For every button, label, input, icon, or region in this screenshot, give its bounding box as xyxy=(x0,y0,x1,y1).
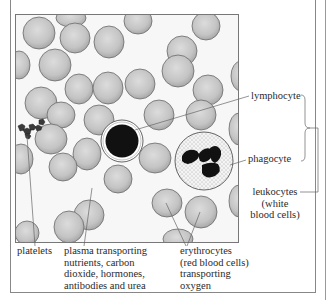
erythrocyte xyxy=(94,26,124,58)
label-leukocytes: leukocytes (white blood cells) xyxy=(243,186,307,221)
label-leukocytes-line1: leukocytes xyxy=(243,186,307,198)
erythrocyte xyxy=(104,165,132,193)
erythrocyte xyxy=(192,15,220,40)
erythrocyte xyxy=(185,196,217,228)
erythrocyte xyxy=(162,55,194,87)
label-plasma-line2: nutrients, carbon xyxy=(64,257,147,269)
erythrocyte xyxy=(54,211,84,243)
erythrocyte xyxy=(60,23,90,53)
erythrocyte xyxy=(65,74,93,104)
page-edge-divider xyxy=(325,0,326,300)
erythrocyte xyxy=(125,69,155,99)
label-phagocyte: phagocyte xyxy=(248,153,291,165)
label-platelets: platelets xyxy=(17,245,52,257)
label-erythrocytes-line2: (red blood cells) xyxy=(180,257,249,269)
blood-cells-illustration xyxy=(16,15,239,243)
erythrocyte xyxy=(139,143,171,173)
erythrocyte xyxy=(16,221,39,243)
label-plasma-line1: plasma transporting xyxy=(64,245,147,257)
label-plasma: plasma transporting nutrients, carbon di… xyxy=(64,245,147,291)
label-erythrocytes: erythrocytes (red blood cells) transport… xyxy=(180,245,249,291)
erythrocyte xyxy=(93,72,123,104)
erythrocyte xyxy=(23,17,55,49)
erythrocyte xyxy=(152,189,182,217)
label-erythrocytes-line3: transporting xyxy=(180,268,249,280)
label-plasma-line4: antibodies and urea xyxy=(64,280,147,292)
label-leukocytes-line2: (white xyxy=(243,198,307,210)
label-erythrocytes-line1: erythrocytes xyxy=(180,245,249,257)
erythrocyte xyxy=(186,100,216,130)
erythrocyte xyxy=(49,153,77,181)
erythrocyte xyxy=(144,100,174,130)
erythrocyte xyxy=(39,49,71,81)
label-plasma-line3: dioxide, hormones, xyxy=(64,268,147,280)
phagocyte-cell xyxy=(175,132,233,190)
label-lymphocyte: lymphocyte xyxy=(251,90,301,102)
label-leukocytes-line3: blood cells) xyxy=(243,209,307,221)
blood-smear-diagram xyxy=(15,14,239,243)
lymphocyte-cell xyxy=(101,120,143,162)
label-erythrocytes-line4: oxygen xyxy=(180,280,249,292)
